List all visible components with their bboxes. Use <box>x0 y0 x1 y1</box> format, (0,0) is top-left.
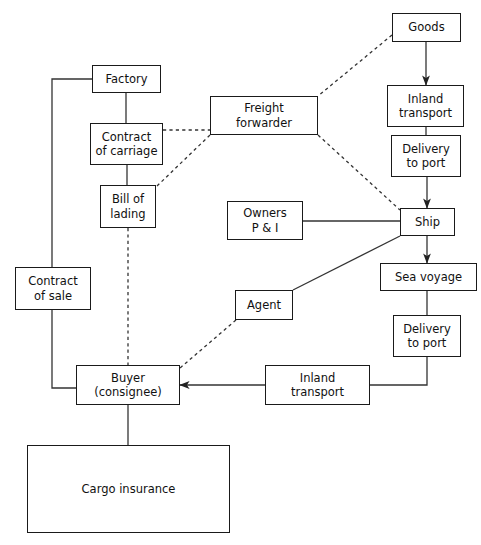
edge-goods-to-freight-forwarder <box>318 35 392 96</box>
node-label-ship: Ship <box>415 215 440 229</box>
node-label-contract_carriage: Contract of carriage <box>96 130 158 159</box>
node-ship[interactable]: Ship <box>400 208 455 236</box>
node-owners_pandi[interactable]: Owners P & I <box>227 201 303 240</box>
node-inland_bottom[interactable]: Inland transport <box>265 365 370 405</box>
node-label-inland_top: Inland transport <box>399 92 452 121</box>
node-label-owners_pandi: Owners P & I <box>243 206 287 235</box>
edge-agent-to-buyer <box>180 320 236 368</box>
edge-forwarder-to-ship <box>318 135 400 210</box>
edge-factory-to-buyer-left <box>52 79 92 388</box>
node-label-cargo_insurance: Cargo insurance <box>82 482 176 496</box>
shipping-flowchart-diagram: GoodsInland transportDelivery to portShi… <box>0 0 481 545</box>
node-delivery_top[interactable]: Delivery to port <box>391 135 461 177</box>
node-bill_of_lading[interactable]: Bill of lading <box>100 185 156 228</box>
node-agent[interactable]: Agent <box>235 290 293 320</box>
node-label-agent: Agent <box>247 298 281 312</box>
node-label-buyer: Buyer (consignee) <box>94 371 162 400</box>
node-label-sea_voyage: Sea voyage <box>395 270 462 284</box>
node-label-goods: Goods <box>408 20 444 34</box>
node-sea_voyage[interactable]: Sea voyage <box>380 263 477 291</box>
node-delivery_bottom[interactable]: Delivery to port <box>393 315 461 357</box>
edge-forwarder-to-bill <box>156 135 210 187</box>
node-buyer[interactable]: Buyer (consignee) <box>76 365 180 405</box>
node-label-delivery_top: Delivery to port <box>402 142 450 171</box>
node-contract_carriage[interactable]: Contract of carriage <box>90 123 163 165</box>
node-label-factory: Factory <box>105 72 147 86</box>
node-label-bill_of_lading: Bill of lading <box>110 192 145 221</box>
edge-delivery-to-inland-bottom <box>370 357 427 385</box>
node-label-inland_bottom: Inland transport <box>291 371 344 400</box>
node-inland_top[interactable]: Inland transport <box>387 85 464 127</box>
node-label-delivery_bottom: Delivery to port <box>403 322 451 351</box>
node-goods[interactable]: Goods <box>392 13 461 42</box>
node-contract_of_sale[interactable]: Contract of sale <box>15 267 91 310</box>
node-cargo_insurance[interactable]: Cargo insurance <box>27 445 230 533</box>
node-label-contract_of_sale: Contract of sale <box>28 274 77 303</box>
node-freight_forwarder[interactable]: Freight forwarder <box>210 96 318 135</box>
node-factory[interactable]: Factory <box>92 65 161 93</box>
node-label-freight_forwarder: Freight forwarder <box>236 101 292 130</box>
